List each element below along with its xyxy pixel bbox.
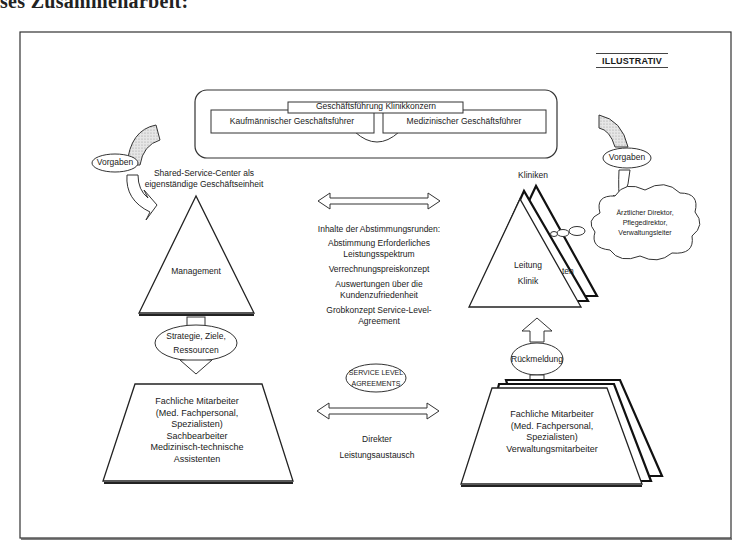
sla-label-line2: AGREEMENTS (351, 378, 400, 389)
exchange-label-line1: Direkter (362, 434, 392, 445)
feedback-label: Rückmeldung (511, 354, 563, 365)
left-vorgaben-label: Vorgaben (97, 157, 133, 168)
left-staff-line: Medizinisch-technische (150, 442, 243, 454)
left-staff-line: Sachbearbeiter (150, 431, 243, 443)
ssc-title-line1: Shared-Service-Center als (154, 168, 254, 179)
cloud-line: Verwaltungsleiter (616, 228, 673, 238)
medical-director-label: Medizinischer Geschäftsführer (407, 116, 522, 127)
exchange-label-line2: Leistungsaustausch (339, 450, 414, 461)
left-staff-text: Fachliche Mitarbeiter (Med. Fachpersonal… (150, 396, 243, 465)
left-staff-line: Fachliche Mitarbeiter (150, 396, 243, 408)
clinics-label: Kliniken (518, 170, 548, 181)
right-staff-line: (Med. Fachpersonal, (506, 421, 598, 433)
cloud-text: Ärztlicher Direktor, Pflegedirektor, Ver… (616, 208, 673, 238)
right-vorgaben-label: Vorgaben (609, 152, 645, 163)
klinik-label: Klinik (518, 276, 538, 287)
topic-line: Kundenzufriedenheit (340, 290, 418, 301)
double-arrow-top (318, 193, 440, 209)
management-triangle (139, 196, 254, 315)
illustrative-label: ILLUSTRATIV (596, 53, 668, 68)
leitung-label: Leitung (514, 260, 542, 271)
double-arrow-bottom (317, 403, 439, 419)
topics-heading: Inhalte der Abstimmungsrunden: (318, 224, 440, 235)
behind-triangle-fragment: ten (562, 266, 574, 277)
right-staff-text: Fachliche Mitarbeiter (Med. Fachpersonal… (506, 409, 598, 455)
topic-line: Verrechnungspreiskonzept (329, 264, 430, 275)
left-staff-line: Spezialisten) (150, 419, 243, 431)
strategy-label-line2: Ressourcen (173, 345, 218, 356)
feedback-connector (511, 318, 563, 382)
right-staff-line: Fachliche Mitarbeiter (506, 409, 598, 421)
topic-line: Auswertungen über die (335, 279, 422, 290)
management-label: Management (171, 266, 221, 277)
cloud-line: Pflegedirektor, (616, 218, 673, 228)
sla-label-line1: SERVICE LEVEL (349, 367, 403, 378)
right-staff-line: Verwaltungsmitarbeiter (506, 444, 598, 456)
concern-management-label: Geschäftsführung Klinikkonzern (316, 101, 436, 112)
cloud-line: Ärztlicher Direktor, (616, 208, 673, 218)
topic-line: Grobkonzept Service-Level- (326, 305, 431, 316)
topic-line: Leistungsspektrum (343, 249, 414, 260)
ssc-title-line2: eigenständige Geschäftseinheit (145, 179, 264, 190)
topic-line: Agreement (358, 316, 400, 327)
right-staff-line: Spezialisten) (506, 432, 598, 444)
left-staff-line: (Med. Fachpersonal, (150, 408, 243, 420)
left-staff-line: Assistenten (150, 454, 243, 466)
left-vorgaben-arrow (92, 125, 160, 220)
strategy-label-line1: Strategie, Ziele, (166, 331, 226, 342)
topic-line: Abstimmung Erforderliches (328, 238, 430, 249)
commercial-director-label: Kaufmännischer Geschäftsführer (230, 116, 354, 127)
clinic-triangles (469, 186, 597, 307)
